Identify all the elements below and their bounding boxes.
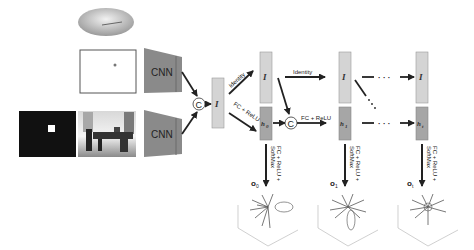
svg-text:SoftMax: SoftMax xyxy=(349,146,355,168)
svg-text:I: I xyxy=(214,99,219,109)
direction-distribution-t xyxy=(398,194,458,246)
svg-text:0: 0 xyxy=(256,183,259,189)
cnn-label: CNN xyxy=(151,67,173,78)
scene-input-image xyxy=(78,111,136,157)
svg-text:h: h xyxy=(340,120,344,128)
feature-box-I: I xyxy=(260,52,272,103)
svg-text:I: I xyxy=(341,72,346,82)
direction-distribution-1 xyxy=(318,194,378,246)
svg-text:SoftMax: SoftMax xyxy=(270,146,276,168)
svg-text:h: h xyxy=(417,120,421,128)
svg-text:I: I xyxy=(418,72,423,82)
arrow xyxy=(182,72,197,96)
feature-box-I: I xyxy=(416,52,428,103)
svg-text:t: t xyxy=(412,183,414,189)
concat-node: C xyxy=(193,98,205,110)
arrow xyxy=(182,112,197,134)
output-branch-0: FC + ReLU + SoftMax o 0 xyxy=(251,144,282,189)
direction-distribution-0 xyxy=(238,194,298,246)
fc-relu-label: FC + ReLU xyxy=(232,101,260,123)
svg-text:C: C xyxy=(288,119,295,129)
cnn-label: CNN xyxy=(151,129,173,140)
hidden-state-h1: h 1 xyxy=(339,107,351,140)
position-map-input xyxy=(80,50,136,93)
feature-box-I: I xyxy=(212,78,224,128)
svg-text:h: h xyxy=(261,120,265,128)
hidden-state-ht: h t xyxy=(416,107,428,140)
output-branch-t: FC + ReLU + SoftMax o t xyxy=(407,144,438,189)
arrow xyxy=(278,78,289,114)
architecture-diagram: CNN CNN C I Identity FC + ReLU I h 0 Ide… xyxy=(0,0,474,250)
output-branch-1: FC + ReLU + SoftMax o 1 xyxy=(330,144,361,189)
svg-text:1: 1 xyxy=(335,183,338,189)
disc-input-image xyxy=(78,8,134,36)
ellipsis: · · · xyxy=(378,73,390,82)
cnn-encoder-bottom: CNN xyxy=(144,110,182,157)
identity-label: Identity xyxy=(293,69,312,75)
fc-relu-label: FC + ReLU xyxy=(301,115,331,121)
cnn-encoder-top: CNN xyxy=(144,48,182,93)
concat-node: C xyxy=(285,117,297,129)
feature-box-I: I xyxy=(339,52,351,103)
svg-text:I: I xyxy=(262,72,267,82)
ellipsis: · · · xyxy=(378,119,390,128)
svg-text:SoftMax: SoftMax xyxy=(426,146,432,168)
mask-input-image xyxy=(19,111,76,157)
arrow xyxy=(355,80,366,96)
svg-text:1: 1 xyxy=(345,124,348,129)
svg-text:C: C xyxy=(196,100,203,110)
hidden-state-h0: h 0 xyxy=(260,107,272,140)
